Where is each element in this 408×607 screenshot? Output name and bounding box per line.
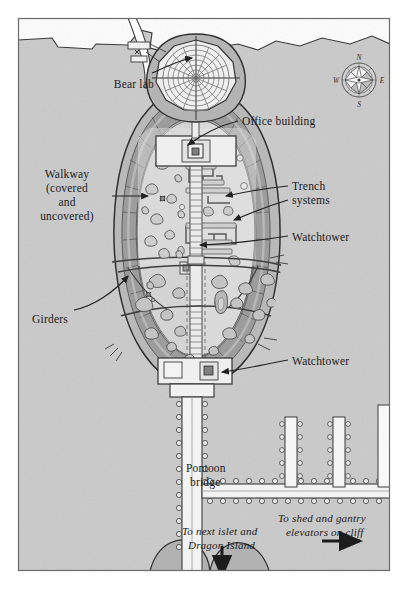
map-canvas: N S E W Bear labOffice buildingWalkway(c… [0, 0, 408, 607]
map-body: N S E W [18, 18, 390, 576]
pier-3 [378, 405, 390, 487]
map-label-pontoon-bridge: Pontoon [186, 462, 264, 475]
map-label-to-next-islet2: Dragon Island [188, 539, 306, 551]
map-label-to-next-islet: To next islet and [182, 525, 300, 537]
compass-label-west: W [333, 76, 340, 85]
map-label-girders: Girders [32, 313, 98, 326]
map-label-watchtower-top: Watchtower [292, 231, 384, 244]
map-label-office-building: Office building [242, 115, 352, 128]
map-label-pontoon-bridge2: bridge [190, 476, 268, 489]
map-label-trench-systems2: systems [292, 194, 372, 207]
map-label-walkway-sub1: (covered [24, 182, 110, 195]
map-label-bear-lab: Bear lab [80, 78, 154, 91]
map-label-trench-systems: Trench [292, 180, 372, 193]
compass-label-south: S [357, 100, 361, 109]
map-label-walkway-sub2: and [24, 196, 110, 209]
compass-label-north: N [355, 53, 362, 62]
compass-center [357, 78, 360, 81]
antenna-marker [160, 196, 165, 201]
map-label-to-shed2: elevators on cliff [286, 526, 404, 538]
map-label-watchtower-bot: Watchtower [292, 355, 384, 368]
watchtower-top-structure [188, 144, 203, 158]
boulder-elongated [215, 291, 228, 314]
map-label-walkway-sub3: uncovered) [24, 210, 110, 223]
girder-node [188, 256, 204, 264]
map-label-to-shed: To shed and gantry [278, 512, 402, 524]
compass-label-east: E [379, 76, 385, 85]
map-label-walkway: Walkway [24, 168, 110, 181]
bridge-abutment [170, 384, 214, 397]
bear-lab-highlight [163, 45, 229, 111]
